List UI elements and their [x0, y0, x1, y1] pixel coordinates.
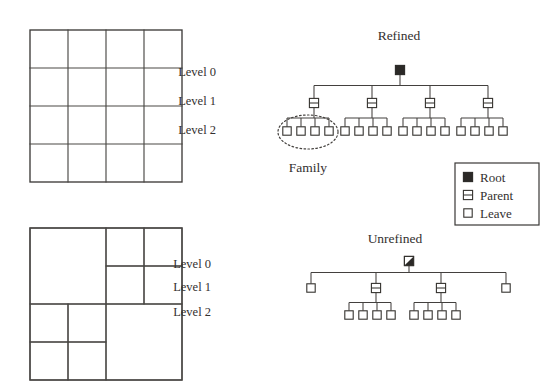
tree-node-leaf — [345, 311, 353, 319]
tree-node-leaf — [457, 127, 465, 135]
level-label-1: Level 1 — [178, 94, 216, 108]
unrefined-tree-title: Unrefined — [368, 231, 423, 246]
tree-node-leaf — [369, 127, 377, 135]
tree-node-leaf — [311, 127, 319, 135]
tree-node-leaf — [297, 127, 305, 135]
figure-canvas: Refined Level 0Level 1Level 2 Family Unr… — [0, 0, 547, 385]
mesh-cell — [106, 304, 182, 380]
tree-node-leaf — [399, 127, 407, 135]
refined-tree: Refined Level 0Level 1Level 2 Family — [178, 28, 507, 175]
tree-node-leaf — [341, 127, 349, 135]
unrefined-level-labels: Level 0Level 1Level 2 — [173, 257, 211, 319]
level-label-2: Level 2 — [173, 305, 211, 319]
level-label-2: Level 2 — [178, 123, 216, 137]
tree-node-parent — [425, 98, 434, 107]
tree-node-parent — [463, 190, 472, 199]
tree-node-leaf — [427, 127, 435, 135]
adaptive-unrefined-mesh — [30, 228, 182, 380]
unrefined-tree: Unrefined Level 0Level 1Level 2 — [173, 231, 510, 319]
refined-tree-title: Refined — [378, 28, 421, 43]
family-label: Family — [289, 160, 328, 175]
tree-node-root — [395, 65, 404, 74]
tree-node-leaf — [424, 311, 432, 319]
tree-node-leaf — [325, 127, 333, 135]
node-type-legend: RootParentLeave — [455, 163, 539, 225]
tree-node-root-partial — [404, 256, 413, 265]
tree-node-leaf — [441, 127, 449, 135]
legend-label-parent: Parent — [480, 188, 514, 203]
tree-node-leaf — [387, 311, 395, 319]
mesh-cell — [106, 228, 144, 266]
quadtree-refinement-figure: Refined Level 0Level 1Level 2 Family Unr… — [0, 0, 547, 385]
tree-node-parent — [371, 283, 380, 292]
tree-node-leaf — [373, 311, 381, 319]
refined-level-labels: Level 0Level 1Level 2 — [178, 65, 216, 137]
mesh-cell — [68, 342, 106, 380]
mesh-cell — [30, 228, 106, 304]
tree-node-leaf — [464, 209, 472, 217]
tree-node-leaf — [355, 127, 363, 135]
tree-node-leaf — [283, 127, 291, 135]
mesh-cell — [106, 266, 144, 304]
uniform-refined-mesh — [30, 30, 182, 182]
level-label-0: Level 0 — [173, 257, 211, 271]
tree-node-leaf — [307, 284, 315, 292]
refined-tree-graph — [283, 65, 507, 135]
tree-node-parent — [367, 98, 376, 107]
level-label-1: Level 1 — [173, 280, 211, 294]
tree-node-parent — [436, 283, 445, 292]
unrefined-tree-graph — [307, 256, 510, 319]
tree-node-leaf — [383, 127, 391, 135]
tree-node-parent — [309, 98, 318, 107]
level-label-0: Level 0 — [178, 65, 216, 79]
tree-node-leaf — [471, 127, 479, 135]
mesh-cell — [30, 304, 68, 342]
tree-node-leaf — [452, 311, 460, 319]
tree-node-leaf — [485, 127, 493, 135]
legend-label-leave: Leave — [480, 206, 512, 221]
tree-node-leaf — [359, 311, 367, 319]
tree-node-leaf — [499, 127, 507, 135]
mesh-cell — [30, 342, 68, 380]
tree-node-leaf — [438, 311, 446, 319]
tree-node-leaf — [413, 127, 421, 135]
tree-node-parent — [483, 98, 492, 107]
tree-node-leaf — [410, 311, 418, 319]
mesh-cell — [68, 304, 106, 342]
tree-node-root — [463, 172, 472, 181]
legend-label-root: Root — [480, 170, 506, 185]
tree-node-leaf — [502, 284, 510, 292]
